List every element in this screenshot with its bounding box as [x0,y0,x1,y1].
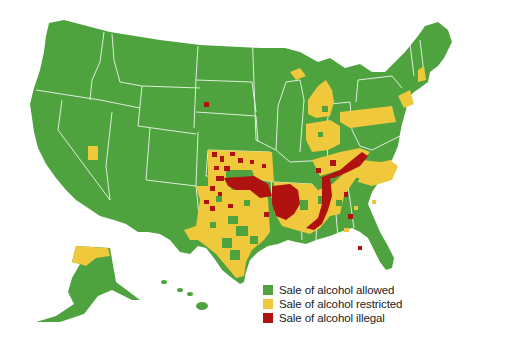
legend-label-allowed: Sale of alcohol allowed [279,284,394,296]
legend-swatch-illegal [263,313,273,323]
legend-item-allowed: Sale of alcohol allowed [263,283,402,296]
legend-label-restricted: Sale of alcohol restricted [279,298,402,310]
hawaii [161,280,208,310]
us-alcohol-map [0,0,511,339]
legend-item-restricted: Sale of alcohol restricted [263,297,402,310]
legend: Sale of alcohol allowed Sale of alcohol … [263,283,402,325]
legend-swatch-restricted [263,299,273,309]
legend-label-illegal: Sale of alcohol illegal [279,312,385,324]
legend-swatch-allowed [263,285,273,295]
legend-item-illegal: Sale of alcohol illegal [263,311,402,324]
